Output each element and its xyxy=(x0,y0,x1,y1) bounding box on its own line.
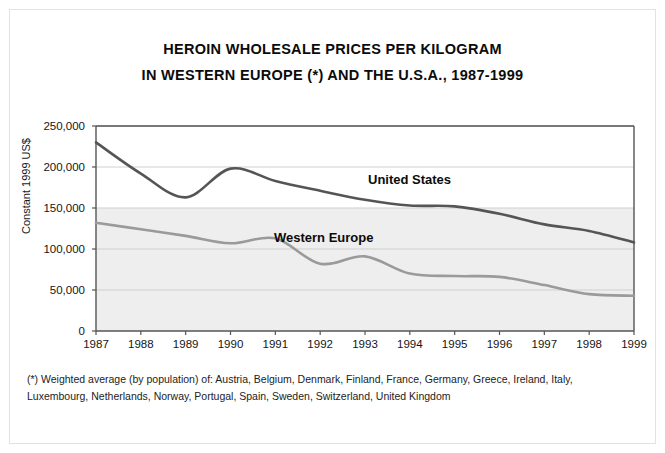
footnote: (*) Weighted average (by population) of:… xyxy=(27,371,639,405)
x-tick-label: 1999 xyxy=(607,338,661,350)
footnote-line-1: (*) Weighted average (by population) of:… xyxy=(27,371,639,388)
footnote-line-2: Luxembourg, Netherlands, Norway, Portuga… xyxy=(27,388,639,405)
chart-figure: HEROIN WHOLESALE PRICES PER KILOGRAM IN … xyxy=(0,0,665,453)
series-label-western-europe: Western Europe xyxy=(274,230,373,245)
series-label-united-states: United States xyxy=(368,172,451,187)
